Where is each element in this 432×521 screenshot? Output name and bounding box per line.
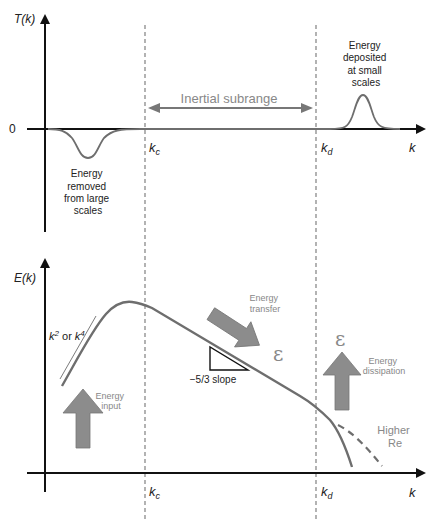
higher-re-label: Higher Re: [377, 424, 412, 449]
energy-removed-label: Energy removed from large scales: [64, 168, 112, 216]
bottom-y-axis-label: E(k): [14, 271, 36, 285]
top-kc-label: kc: [149, 140, 161, 157]
energy-dissipation-arrow: [323, 352, 361, 410]
slope-triangle: [210, 347, 248, 370]
top-panel: T(k) 0 k kc kd Inertial subrange Energy …: [9, 12, 424, 232]
energy-dissipation-label: Energy dissipation: [363, 356, 406, 376]
energy-input-label: Energy input: [95, 391, 126, 411]
top-kd-label: kd: [321, 140, 334, 157]
bottom-x-axis-label: k: [409, 485, 417, 500]
epsilon-transfer-label: ε: [273, 342, 283, 366]
slope-label: −5/3 slope: [190, 374, 237, 385]
energy-transfer-label: Energy transfer: [249, 293, 280, 314]
bottom-panel: E(k) k kc kd k2 or k4 Energy input Energ…: [14, 260, 424, 501]
zero-label: 0: [9, 122, 16, 136]
inertial-arrowhead-right: [301, 103, 313, 113]
top-y-axis-label: T(k): [14, 12, 35, 26]
power-law-label: k2 or k4: [49, 329, 85, 342]
epsilon-dissipation-label: ε: [335, 327, 345, 351]
energy-cascade-diagram: T(k) 0 k kc kd Inertial subrange Energy …: [0, 0, 432, 521]
inertial-arrowhead-left: [148, 103, 160, 113]
inertial-subrange-label: Inertial subrange: [181, 91, 278, 106]
top-x-axis-label: k: [409, 140, 417, 155]
energy-deposited-label: Energy deposited at small scales: [343, 40, 389, 88]
bottom-kd-label: kd: [321, 484, 334, 501]
power-law-reference-line: [60, 316, 96, 379]
bottom-kc-label: kc: [149, 484, 161, 501]
